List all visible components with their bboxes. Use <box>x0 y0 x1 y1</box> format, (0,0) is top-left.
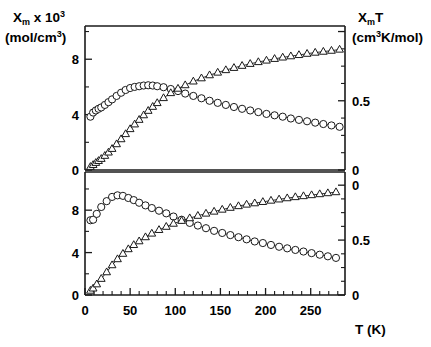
data-point-chi-m-t-bottom <box>291 193 299 200</box>
data-point-chi-m-bottom <box>276 243 283 250</box>
series-line-chi-m-t-top <box>90 50 339 167</box>
xtick-label-4: 200 <box>255 303 277 318</box>
right-axis-units-a: (cm <box>352 30 376 45</box>
data-point-chi-m-bottom <box>243 236 250 243</box>
left-axis-units-b: ) <box>62 30 67 45</box>
data-point-chi-m-top <box>206 97 213 104</box>
data-point-chi-m-t-bottom <box>316 190 324 197</box>
ytick-left-label-0-0: 0 <box>72 163 79 178</box>
data-point-chi-m-bottom <box>155 207 162 214</box>
data-point-chi-m-bottom <box>93 210 100 217</box>
svg-text:(mol/cm3): (mol/cm3) <box>5 29 66 45</box>
data-point-chi-m-bottom <box>324 253 331 260</box>
data-point-chi-m-bottom <box>163 210 170 217</box>
left-axis-units-a: (mol/cm <box>5 30 57 45</box>
ytick-right-label-0-0: 0 <box>352 163 359 178</box>
data-point-chi-m-top <box>279 113 286 120</box>
data-point-chi-m-top <box>247 107 254 114</box>
figure-container: Xm x 103 (mol/cm3) XmT (cm3K/mol) T (K) … <box>0 0 431 347</box>
data-point-chi-m-bottom <box>235 234 242 241</box>
ytick-left-label-0-2: 8 <box>72 52 79 67</box>
data-point-chi-m-t-bottom <box>332 188 340 195</box>
data-point-chi-m-top <box>160 84 167 91</box>
right-axis-title-sym: X <box>358 10 367 25</box>
ytick-right-label-1-1: 0.5 <box>352 233 370 248</box>
svg-text:XmT: XmT <box>358 10 384 27</box>
data-point-chi-m-t-top <box>174 84 182 91</box>
data-point-chi-m-bottom <box>227 231 234 238</box>
data-point-chi-m-bottom <box>219 229 226 236</box>
data-point-chi-m-top <box>214 99 221 106</box>
ytick-right-label-1-0: 0 <box>352 288 359 303</box>
x-axis-title: T (K) <box>355 322 386 337</box>
ytick-left-label-1-1: 4 <box>72 246 80 261</box>
right-axis-title: XmT (cm3K/mol) <box>352 10 423 45</box>
data-point-chi-m-t-top <box>311 48 319 55</box>
ytick-left-label-1-0: 0 <box>72 288 79 303</box>
data-point-chi-m-top <box>198 95 205 102</box>
data-point-chi-m-bottom <box>251 238 258 245</box>
data-point-chi-m-bottom <box>211 227 218 234</box>
svg-text:(cm3K/mol): (cm3K/mol) <box>352 29 423 45</box>
data-point-chi-m-bottom <box>284 245 291 252</box>
data-point-chi-m-top <box>303 118 310 125</box>
data-point-chi-m-t-bottom <box>135 237 143 244</box>
left-axis-title-sup: 3 <box>60 9 65 19</box>
data-point-chi-m-top <box>238 105 245 112</box>
data-point-chi-m-top <box>312 119 319 126</box>
xtick-label-1: 50 <box>123 303 137 318</box>
data-point-chi-m-bottom <box>98 203 105 210</box>
right-axis-title-sub: m <box>367 17 375 27</box>
data-point-chi-m-top <box>328 122 335 129</box>
data-point-chi-m-t-top <box>160 94 168 101</box>
xtick-label-5: 250 <box>300 303 322 318</box>
data-point-chi-m-top <box>230 103 237 110</box>
data-point-chi-m-bottom <box>332 254 339 261</box>
ytick-left-label-1-2: 8 <box>72 203 79 218</box>
right-axis-title-rest: T <box>375 10 384 25</box>
data-point-chi-m-top <box>271 112 278 119</box>
data-point-chi-m-top <box>182 90 189 97</box>
data-point-chi-m-bottom <box>194 222 201 229</box>
data-point-chi-m-top <box>255 109 262 116</box>
data-point-chi-m-bottom <box>300 248 307 255</box>
data-point-chi-m-t-bottom <box>324 189 332 196</box>
left-axis-title-rest: x 10 <box>30 10 60 25</box>
xtick-label-2: 100 <box>164 303 186 318</box>
data-point-chi-m-bottom <box>267 241 274 248</box>
data-point-chi-m-bottom <box>259 239 266 246</box>
xtick-label-0: 0 <box>81 303 88 318</box>
series-line-chi-m-t-bottom <box>90 192 336 291</box>
data-point-chi-m-top <box>190 92 197 99</box>
left-axis-title-sub: m <box>22 17 30 27</box>
data-point-chi-m-bottom <box>308 250 315 257</box>
data-point-chi-m-bottom <box>316 251 323 258</box>
ytick-right-label-1-2: 0 <box>352 178 359 193</box>
plot-content: 04800.504800.50050100150200250 <box>72 26 370 318</box>
data-point-chi-m-top <box>295 116 302 123</box>
left-axis-title: Xm x 103 (mol/cm3) <box>5 9 66 45</box>
svg-text:Xm x 103: Xm x 103 <box>13 9 65 27</box>
xtick-label-3: 150 <box>210 303 232 318</box>
data-point-chi-m-bottom <box>148 204 155 211</box>
data-point-chi-m-t-top <box>319 47 327 54</box>
ytick-left-label-0-1: 4 <box>72 108 80 123</box>
data-point-chi-m-bottom <box>202 225 209 232</box>
data-point-chi-m-t-bottom <box>300 192 308 199</box>
data-point-chi-m-top <box>320 120 327 127</box>
data-point-chi-m-top <box>336 123 343 130</box>
chart-svg: Xm x 103 (mol/cm3) XmT (cm3K/mol) T (K) … <box>0 0 431 347</box>
data-point-chi-m-top <box>222 101 229 108</box>
right-axis-units-b: K/mol) <box>381 30 423 45</box>
data-point-chi-m-top <box>263 110 270 117</box>
data-point-chi-m-top <box>287 115 294 122</box>
left-axis-title-sym: X <box>13 10 22 25</box>
data-point-chi-m-bottom <box>292 246 299 253</box>
ytick-right-label-0-1: 0.5 <box>352 94 370 109</box>
data-point-chi-m-t-bottom <box>308 191 316 198</box>
